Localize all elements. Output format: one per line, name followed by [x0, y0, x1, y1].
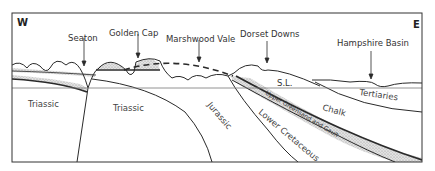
golden-cap-label: Golden Cap: [109, 28, 158, 38]
seaton-label: Seaton: [68, 33, 98, 43]
east-label: E: [413, 19, 420, 30]
marshwood-vale-label: Marshwood Vale: [166, 34, 235, 44]
marshwood-vale-arrow-icon: [197, 57, 201, 62]
triassic-jurassic-boundary: [92, 79, 212, 162]
seaton-fault: [77, 88, 88, 162]
seaton-arrow-icon: [82, 61, 86, 66]
hampshire-basin-label: Hampshire Basin: [337, 38, 409, 48]
geological-cross-section: W E Seaton Golden Cap Marshwood Vale Dor…: [0, 0, 435, 171]
stratum-triassic-central: Triassic: [112, 103, 144, 113]
dorset-downs-arrow-icon: [265, 58, 269, 63]
stratum-chalk: Chalk: [321, 102, 347, 118]
land-surface-hampshire: [312, 80, 422, 87]
west-label: W: [17, 17, 28, 28]
stratum-triassic-west: Triassic: [27, 99, 59, 109]
hampshire-basin-arrow-icon: [369, 74, 373, 79]
golden-cap-arrow-icon: [136, 53, 140, 58]
stratum-upper-greensand-gault: Upper Greensand and Gault: [264, 89, 341, 139]
dorset-downs-label: Dorset Downs: [240, 29, 300, 39]
stratum-jurassic: Jurassic: [205, 99, 234, 131]
stratum-tertiaries: Tertiaries: [358, 87, 399, 103]
sea-level-label: S.L.: [277, 78, 293, 88]
